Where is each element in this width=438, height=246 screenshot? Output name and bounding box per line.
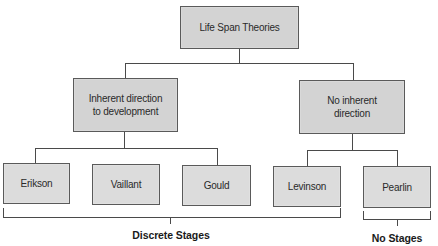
connector-to-erikson [35,148,36,163]
node-no-inherent-direction: No inherent direction [299,80,405,134]
bracket-nostages-tick [397,219,398,226]
node-label: Levinson [288,180,326,193]
bracket-discrete-tick [170,217,171,224]
node-label: No inherent direction [327,94,377,120]
connector-no-inherent-down [352,134,353,150]
connector-to-inherent [125,63,126,78]
life-span-theories-diagram: Life Span Theories Inherent direction to… [0,0,438,246]
node-label: Gould [204,179,230,192]
node-vaillant: Vaillant [92,164,160,205]
node-erikson: Erikson [3,163,70,204]
bracket-discrete-left [3,208,4,217]
connector-to-no-inherent [353,63,354,80]
bracket-nostages-right [430,211,431,219]
node-life-span-theories: Life Span Theories [180,6,299,49]
connector-root-down [239,49,240,63]
node-pearlin: Pearlin [363,166,431,208]
bracket-discrete-horizontal [3,217,341,218]
bracket-discrete-right [340,208,341,217]
node-inherent-direction: Inherent direction to development [73,78,178,132]
node-levinson: Levinson [273,166,341,207]
node-label: Inherent direction to development [89,92,163,118]
group-label-discrete-stages: Discrete Stages [132,229,209,241]
group-label-no-stages: No Stages [372,232,422,244]
connector-no-inherent-horizontal [307,150,398,151]
node-label: Pearlin [382,181,412,194]
connector-root-horizontal [125,63,354,64]
node-label: Life Span Theories [199,21,279,34]
connector-inherent-horizontal [35,148,218,149]
node-label: Vaillant [111,178,141,191]
connector-inherent-down [124,132,125,148]
connector-to-gould [217,148,218,165]
connector-to-pearlin [397,150,398,166]
node-gould: Gould [182,165,251,206]
connector-to-levinson [307,150,308,166]
node-label: Erikson [21,177,53,190]
bracket-nostages-left [363,211,364,219]
